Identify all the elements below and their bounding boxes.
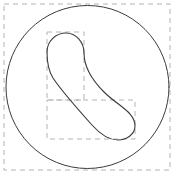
vector-figure: [0, 0, 175, 175]
bean-lower-bounding-box[interactable]: [47, 100, 135, 139]
outer-circle[interactable]: [6, 6, 169, 169]
bean-upper-bounding-box[interactable]: [47, 32, 84, 100]
figure-canvas: [0, 0, 175, 175]
bean-curve[interactable]: [47, 33, 135, 140]
